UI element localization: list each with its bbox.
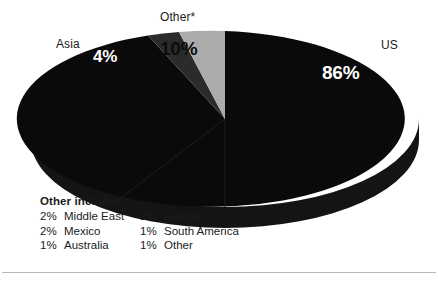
pie-value-other: 10% bbox=[160, 38, 197, 60]
footnote-percent: 1% bbox=[140, 238, 164, 253]
pie-label-us: US bbox=[381, 38, 398, 52]
footnote-entry: 2% Middle East bbox=[40, 209, 140, 224]
pie-label-asia: Asia bbox=[56, 37, 80, 51]
footnote-percent: 2% bbox=[140, 209, 164, 224]
footnote-name: Middle East bbox=[64, 209, 124, 224]
footnote-entry: 1% South America bbox=[140, 224, 300, 239]
footnote-percent: 1% bbox=[140, 224, 164, 239]
footnote-row: 1% Australia 1% Other bbox=[40, 238, 300, 253]
footnote-name: Europe bbox=[164, 209, 201, 224]
footnote-entry: 2% Europe bbox=[140, 209, 300, 224]
footnote-name: South America bbox=[164, 224, 239, 239]
footnote-percent: 1% bbox=[40, 238, 64, 253]
pie-value-asia: 4% bbox=[93, 47, 117, 67]
bottom-divider-rule bbox=[2, 272, 436, 273]
footnote-row: 2% Middle East 2% Europe bbox=[40, 209, 300, 224]
footnote-entry: 1% Other bbox=[140, 238, 300, 253]
footnote-row: 2% Mexico 1% South America bbox=[40, 224, 300, 239]
footnote-block: Other includes: 2% Middle East 2% Europe… bbox=[40, 194, 300, 253]
pie-chart-figure: Asia Other* US 86% 10% 4% Other includes… bbox=[0, 0, 438, 281]
pie-value-us: 86% bbox=[322, 62, 359, 84]
footnote-title: Other includes: bbox=[40, 194, 300, 209]
pie-label-other: Other* bbox=[160, 10, 195, 24]
footnote-entry: 2% Mexico bbox=[40, 224, 140, 239]
footnote-percent: 2% bbox=[40, 209, 64, 224]
footnote-percent: 2% bbox=[40, 224, 64, 239]
footnote-name: Mexico bbox=[64, 224, 100, 239]
footnote-name: Other bbox=[164, 238, 193, 253]
footnote-entry: 1% Australia bbox=[40, 238, 140, 253]
footnote-name: Australia bbox=[64, 238, 109, 253]
